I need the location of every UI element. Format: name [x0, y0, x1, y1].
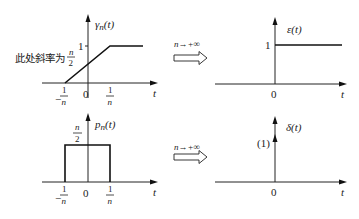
tick-neg-num: 1: [62, 85, 67, 95]
tick-pos-num: 1: [108, 184, 113, 194]
t-axis-arrow-icon: [339, 180, 347, 185]
level-one-label: 1: [78, 40, 84, 52]
height-frac-den: 2: [75, 134, 80, 144]
panel-impulse: δ(t) (1) 0 t: [215, 116, 347, 198]
epsilon-label: ε(t): [287, 23, 302, 36]
limit-text-bottom: n→+∞: [174, 142, 200, 152]
t-axis-arrow-icon: [339, 82, 347, 87]
tick-neg-sign: −: [55, 93, 61, 105]
tick-zero: 0: [83, 88, 89, 100]
limit-arrow-bottom: n→+∞: [174, 142, 207, 164]
impulse-weight-label: (1): [257, 137, 270, 150]
gamma-label: γn(t): [95, 18, 115, 32]
t-axis-label: t: [341, 88, 345, 100]
origin-label: 0: [271, 186, 277, 198]
limit-text-top: n→+∞: [174, 39, 200, 49]
tick-neg-den: n: [62, 196, 67, 206]
tick-pos-den: n: [108, 97, 113, 107]
delta-label: δ(t): [286, 121, 302, 134]
t-axis-arrow-icon: [150, 81, 158, 86]
y-axis-arrow-icon: [273, 116, 278, 124]
tick-neg-den: n: [62, 97, 67, 107]
slope-frac-den: 2: [69, 58, 74, 68]
tick-pos-num: 1: [108, 85, 113, 95]
t-axis-arrow-icon: [150, 180, 158, 185]
signal-limit-diagram: γn(t) 1 此处斜率为 n 2 − 1 n 0 1 n t n→+∞ ε(t…: [0, 0, 359, 219]
y-axis-arrow-icon: [86, 14, 91, 22]
slope-annotation: 此处斜率为: [15, 52, 65, 64]
tick-neg-sign: −: [55, 192, 61, 204]
t-axis-label: t: [341, 186, 345, 198]
origin-label: 0: [271, 88, 277, 100]
tick-neg-num: 1: [62, 184, 67, 194]
ramp-signal: [65, 46, 143, 83]
hollow-arrow-icon: [174, 52, 207, 65]
limit-arrow-top: n→+∞: [174, 39, 207, 65]
height-frac-num: n: [75, 122, 80, 132]
tick-pos-den: n: [108, 196, 113, 206]
y-axis-arrow-icon: [273, 17, 278, 25]
panel-pulse: pn(t) n 2 − 1 n 0 1 n t: [42, 113, 158, 206]
slope-frac-num: n: [69, 47, 74, 57]
panel-gamma-n: γn(t) 1 此处斜率为 n 2 − 1 n 0 1 n t: [15, 14, 158, 107]
hollow-arrow-icon: [174, 151, 207, 164]
panel-step: ε(t) 1 0 t: [215, 17, 347, 100]
pn-label: pn(t): [94, 118, 116, 132]
impulse-arrow-icon: [273, 134, 278, 142]
t-axis-label: t: [153, 87, 157, 99]
tick-zero: 0: [83, 187, 89, 199]
t-axis-label: t: [153, 186, 157, 198]
y-axis-arrow-icon: [86, 113, 91, 121]
level-one-label: 1: [265, 39, 271, 51]
